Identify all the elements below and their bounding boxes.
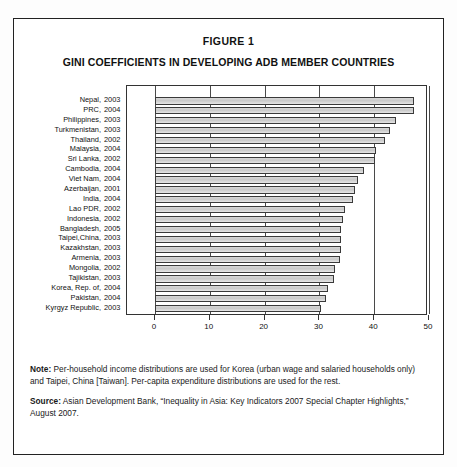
source-label: Source: [30, 396, 61, 406]
y-axis-label: Armenia,2003 [14, 253, 126, 263]
bar [155, 226, 341, 233]
y-axis-label-year: 2002 [101, 214, 122, 224]
y-axis-label-country: Turkmenistan, [54, 125, 101, 134]
y-axis-label: Taipei,China,2003 [14, 233, 126, 243]
y-axis-label: Azerbaijan,2001 [14, 184, 126, 194]
y-axis-label: Malaysia,2004 [14, 144, 126, 154]
y-axis-label-year: 2002 [101, 204, 122, 214]
y-axis-label-country: Kazakhstan, [60, 243, 101, 252]
bar-row [127, 175, 426, 185]
bar-row [127, 215, 426, 225]
bar [155, 275, 334, 282]
x-axis-tick [318, 315, 319, 320]
y-axis-label: Pakistan,2004 [14, 293, 126, 303]
y-axis-label-year: 2004 [101, 105, 122, 115]
y-axis-label: Kazakhstan,2003 [14, 243, 126, 253]
y-axis-label-country: Cambodia, [65, 164, 101, 173]
y-axis-label: Sri Lanka,2002 [14, 154, 126, 164]
y-axis-label-year: 2002 [101, 154, 122, 164]
bar-row [127, 254, 426, 264]
bar [155, 186, 355, 193]
x-axis-tick [428, 315, 429, 320]
bar-row [127, 116, 426, 126]
bar-row [127, 126, 426, 136]
gridline [429, 86, 430, 314]
y-axis-label-country: Malaysia, [70, 144, 101, 153]
y-axis-label-year: 2005 [101, 224, 122, 234]
y-axis-label: Turkmenistan,2003 [14, 125, 126, 135]
y-axis-label: Thailand,2002 [14, 135, 126, 145]
y-axis-label-year: 2004 [101, 283, 122, 293]
bar-row [127, 155, 426, 165]
figure-label: FIGURE 1 [14, 35, 443, 47]
bar-series [127, 96, 426, 314]
bar-row [127, 264, 426, 274]
x-axis-tick [373, 315, 374, 320]
y-axis-label-year: 2002 [101, 135, 122, 145]
x-axis-tick-label: 40 [369, 322, 378, 331]
note-label: Note: [30, 364, 51, 374]
y-axis-label-country: Taipei,China, [58, 233, 101, 242]
bar-row [127, 274, 426, 284]
y-axis-label-year: 2004 [101, 194, 122, 204]
y-axis-label-year: 2003 [101, 243, 122, 253]
y-axis-label-country: PRC, [83, 105, 101, 114]
y-axis-label-country: Tajikistan, [69, 273, 101, 282]
bar-row [127, 185, 426, 195]
x-axis: 01020304050 [126, 315, 426, 339]
title-block: FIGURE 1 GINI COEFFICIENTS IN DEVELOPING… [14, 19, 443, 68]
x-axis-tick [209, 315, 210, 320]
bar [155, 265, 335, 272]
y-axis-label-country: Mongolia, [69, 263, 101, 272]
bar [155, 147, 376, 154]
bar [155, 256, 340, 263]
bar-row [127, 195, 426, 205]
bar [155, 157, 375, 164]
y-axis-label-country: India, [83, 194, 101, 203]
bar [155, 117, 396, 124]
bar [155, 246, 341, 253]
bar [155, 107, 414, 114]
page-title: GINI COEFFICIENTS IN DEVELOPING ADB MEMB… [14, 56, 443, 68]
y-axis-label-year: 2003 [101, 95, 122, 105]
bar [155, 295, 326, 302]
y-axis-label: India,2004 [14, 194, 126, 204]
y-axis-label: Lao PDR,2002 [14, 204, 126, 214]
bar [155, 127, 390, 134]
y-axis-label-country: Armenia, [71, 253, 101, 262]
y-axis-label: Bangladesh,2005 [14, 224, 126, 234]
bar [155, 285, 328, 292]
x-axis-tick-label: 0 [152, 322, 156, 331]
y-axis-label-country: Korea, Rep. of, [51, 283, 101, 292]
bar-row [127, 96, 426, 106]
y-axis-label-country: Pakistan, [71, 293, 101, 302]
figure-page: FIGURE 1 GINI COEFFICIENTS IN DEVELOPING… [0, 0, 457, 467]
figure-frame: FIGURE 1 GINI COEFFICIENTS IN DEVELOPING… [13, 18, 444, 455]
y-axis-category-labels: Nepal,2003PRC,2004Philippines,2003Turkme… [14, 95, 126, 313]
y-axis-label-year: 2003 [101, 273, 122, 283]
y-axis-label: PRC,2004 [14, 105, 126, 115]
source-text: Asian Development Bank, “Inequality in A… [30, 396, 409, 418]
y-axis-label-country: Sri Lanka, [68, 154, 101, 163]
bar-row [127, 284, 426, 294]
y-axis-label-country: Nepal, [80, 95, 101, 104]
bar [155, 97, 414, 104]
x-axis-tick [264, 315, 265, 320]
x-axis-tick-label: 30 [314, 322, 323, 331]
y-axis-label-country: Thailand, [71, 135, 101, 144]
y-axis-label: Philippines,2003 [14, 115, 126, 125]
y-axis-label-country: Azerbaijan, [64, 184, 101, 193]
y-axis-label-year: 2003 [101, 303, 122, 313]
plot-area [126, 85, 426, 315]
y-axis-label-year: 2003 [101, 125, 122, 135]
note-text: Per-household income distributions are u… [30, 364, 415, 386]
bar-row [127, 244, 426, 254]
y-axis-label-country: Kyrgyz Republic, [46, 303, 101, 312]
x-axis-tick-label: 10 [204, 322, 213, 331]
bar [155, 305, 321, 312]
bar [155, 196, 353, 203]
y-axis-label-country: Indonesia, [67, 214, 101, 223]
y-axis-label: Nepal,2003 [14, 95, 126, 105]
x-axis-tick-label: 50 [424, 322, 433, 331]
y-axis-label: Tajikistan,2003 [14, 273, 126, 283]
